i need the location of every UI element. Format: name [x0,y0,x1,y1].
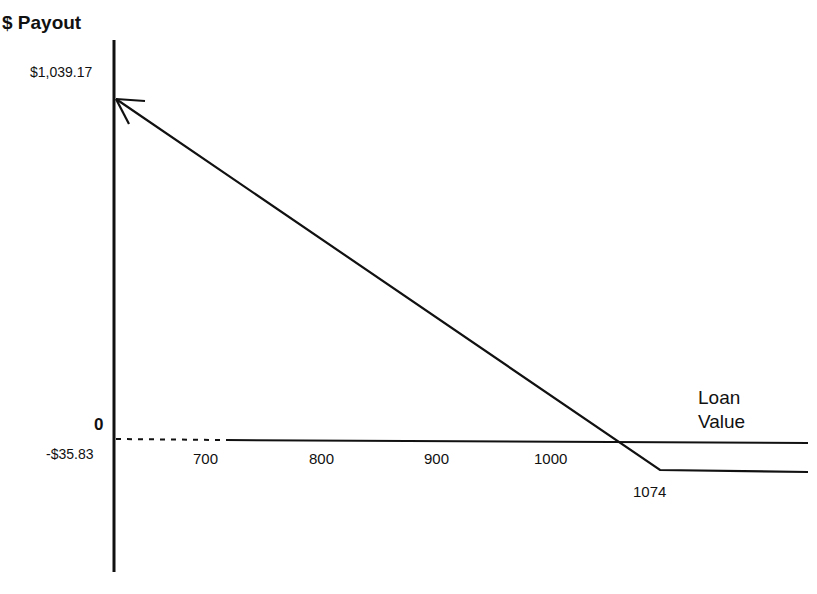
y-min-label: -$35.83 [46,446,93,462]
chart-canvas [0,0,817,594]
x-tick-700: 700 [193,450,218,467]
y-zero-label: 0 [94,415,103,435]
x-axis-label-line1: Loan [698,386,745,410]
x-axis-label: Loan Value [698,386,745,434]
y-max-label: $1,039.17 [30,64,92,80]
x-axis-label-line2: Value [698,410,745,434]
zero-line [226,440,808,443]
x-tick-900: 900 [424,450,449,467]
x-tick-800: 800 [309,450,334,467]
y-axis-label: $ Payout [2,12,81,34]
x-tick-1000: 1000 [534,450,567,467]
zero-line-dashed [116,439,222,440]
break-point-label: 1074 [633,483,666,500]
